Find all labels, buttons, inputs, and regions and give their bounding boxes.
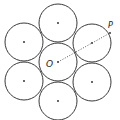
center-dot-lower-left (23, 80, 25, 82)
hexagonal-circle-packing-diagram: O P (0, 0, 120, 120)
dotted-line-o-to-p (58, 33, 110, 62)
center-dot-top (57, 22, 59, 24)
point-p-dot (109, 32, 111, 34)
center-dot-bottom (57, 100, 59, 102)
center-dot-upper-left (23, 41, 25, 43)
label-p: P (108, 21, 113, 30)
label-o: O (46, 59, 53, 69)
center-dot-lower-right (91, 81, 93, 83)
